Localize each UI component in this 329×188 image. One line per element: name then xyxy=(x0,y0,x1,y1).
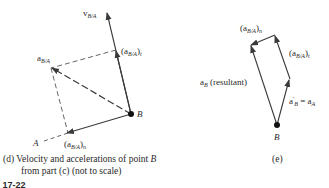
dashed-top xyxy=(51,50,116,68)
right-a-ba-normal-vector xyxy=(251,35,275,45)
right-label-a-ba-t-open: (a xyxy=(289,48,296,58)
caption-d-line1: (d) Velocity and accelerations of point … xyxy=(3,153,156,165)
point-b-dot xyxy=(128,111,134,117)
label-point-b: B xyxy=(137,110,143,119)
label-apb-eq-sub: A xyxy=(312,101,316,107)
label-v-ba-sub: B/A xyxy=(88,13,97,19)
right-label-a-ba-n-comp: n xyxy=(259,28,262,34)
caption-d-line2: from part (c) (not to scale) xyxy=(21,165,122,177)
a-b-resultant-vector xyxy=(251,46,277,125)
right-label-a-ba-n-sub: B/A xyxy=(247,28,256,34)
a-ba-tangential-vector xyxy=(116,51,131,114)
label-a-ba-sub: B/A xyxy=(41,58,50,64)
caption-d-point: B xyxy=(151,154,157,164)
label-apb-sub: B xyxy=(294,101,298,107)
right-label-a-ba-t-sub: B/A xyxy=(296,53,305,59)
left-vector-diagram xyxy=(44,13,134,141)
label-a-prime-b: a′B = aA xyxy=(289,97,315,106)
caption-d-text: (d) Velocity and accelerations of point xyxy=(3,154,151,164)
right-point-b-dot xyxy=(274,122,280,128)
right-a-ba-tangential-vector xyxy=(275,36,290,79)
label-a-ba-n-open: (a xyxy=(64,139,71,149)
label-a-ba-t-open: (a xyxy=(121,46,128,56)
label-a-ba-t-comp: t xyxy=(140,51,142,57)
label-a-b-rest: (resultant) xyxy=(208,77,247,87)
label-a-ba: aB/A xyxy=(37,54,50,63)
right-label-point-b: B xyxy=(274,133,280,142)
label-a-b-resultant: aB (resultant) xyxy=(200,78,247,87)
right-label-a-ba-t-comp: t xyxy=(308,53,310,59)
a-prime-b-vector xyxy=(277,80,289,125)
label-a-ba-n: (aB/A)n xyxy=(64,140,86,149)
label-point-a: A xyxy=(33,139,39,148)
label-a-ba-n-sub: B/A xyxy=(71,144,80,150)
label-a-ba-t: (aB/A)t xyxy=(121,47,142,56)
figure-number: E 17-22 xyxy=(0,180,26,188)
right-label-a-ba-n-open: (a xyxy=(240,23,247,33)
right-label-a-ba-t: (aB/A)t xyxy=(289,49,310,58)
caption-e: (e) xyxy=(272,153,283,165)
label-v-ba: vB/A xyxy=(83,9,97,18)
a-ba-resultant-vector xyxy=(52,68,131,114)
label-apb-eq: = a xyxy=(298,96,312,106)
right-vector-diagram xyxy=(251,35,290,128)
label-a-ba-t-sub: B/A xyxy=(128,51,137,57)
label-a-ba-n-comp: n xyxy=(83,144,86,150)
a-ba-normal-vector xyxy=(67,114,131,133)
label-v-ba-main: v xyxy=(83,8,88,18)
label-a-b-sub: B xyxy=(204,82,208,88)
dashed-left xyxy=(51,68,68,133)
right-label-a-ba-n: (aB/A)n xyxy=(240,24,262,33)
